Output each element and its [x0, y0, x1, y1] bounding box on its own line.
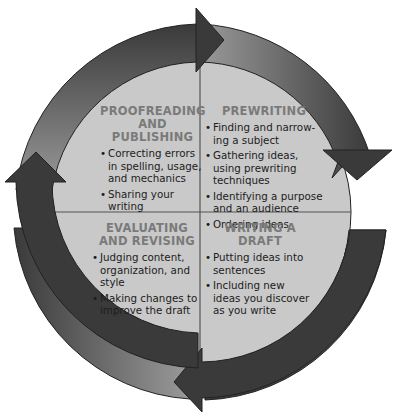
- quadrant-evaluating: EVALUATING AND REVISING Judging content,…: [92, 222, 202, 320]
- quadrant-proofreading: PROOFREADING AND PUBLISHING Correcting e…: [100, 105, 205, 216]
- quadrant-title: EVALUATING AND REVISING: [92, 222, 202, 248]
- list-item: Including new ideas you discover as you …: [205, 279, 315, 317]
- quadrant-prewriting: PREWRITING Finding and narrow-ing a subj…: [205, 105, 323, 233]
- list-item: Making changes to improve the draft: [92, 292, 202, 317]
- list-item: Identifying a purpose and an audience: [205, 190, 323, 215]
- quadrant-title: PREWRITING: [205, 105, 323, 118]
- list-item: Judging content, organization, and style: [92, 251, 202, 289]
- quadrant-title: PROOFREADING AND PUBLISHING: [100, 105, 205, 144]
- list-item: Correcting errors in spelling, usage, an…: [100, 147, 205, 185]
- list-item: Sharing your writing: [100, 188, 205, 213]
- list-item: Finding and narrow-ing a subject: [205, 121, 323, 146]
- list-item: Gathering ideas, using prewriting techni…: [205, 149, 323, 187]
- quadrant-title: WRITING A DRAFT: [205, 222, 315, 248]
- quadrant-drafting: WRITING A DRAFT Putting ideas into sente…: [205, 222, 315, 320]
- list-item: Putting ideas into sentences: [205, 251, 315, 276]
